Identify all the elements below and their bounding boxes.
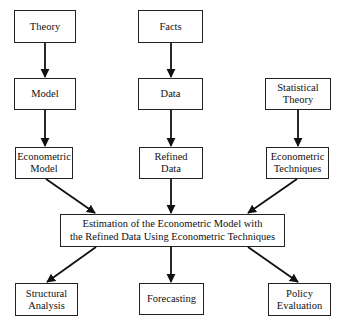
node-refined-data-label: Refined Data: [154, 151, 187, 175]
node-estimation-label: Estimation of the Econometric Model with…: [70, 218, 275, 243]
node-data-label: Data: [161, 88, 181, 100]
node-theory: Theory: [14, 10, 76, 43]
node-policy-evaluation-label: Policy Evaluation: [277, 288, 323, 312]
node-model-label: Model: [31, 88, 58, 100]
node-econometric-model-label: Econometric Model: [17, 151, 71, 175]
arrow-estimation-to-policy-evaluation: [248, 247, 298, 282]
node-statistical-theory: Statistical Theory: [265, 78, 331, 110]
node-data: Data: [138, 78, 203, 110]
node-forecasting-label: Forecasting: [147, 293, 196, 305]
arrow-econometric-model-to-estimation: [46, 179, 95, 213]
node-policy-evaluation: Policy Evaluation: [268, 283, 331, 316]
node-structural-analysis: Structural Analysis: [15, 283, 78, 316]
node-facts: Facts: [138, 10, 203, 43]
node-refined-data: Refined Data: [139, 147, 203, 179]
node-econometric-model: Econometric Model: [15, 147, 73, 179]
node-theory-label: Theory: [30, 21, 60, 33]
node-econometric-techniques-label: Econometric Techniques: [271, 151, 325, 175]
node-econometric-techniques: Econometric Techniques: [266, 147, 329, 179]
node-facts-label: Facts: [159, 21, 181, 33]
arrow-econometric-techniques-to-estimation: [248, 179, 297, 213]
econometrics-flowchart: Theory Facts Model Data Statistical Theo…: [0, 0, 341, 325]
node-forecasting: Forecasting: [139, 283, 204, 315]
node-estimation: Estimation of the Econometric Model with…: [60, 214, 285, 247]
node-structural-analysis-label: Structural Analysis: [26, 288, 67, 312]
node-model: Model: [14, 78, 76, 110]
node-statistical-theory-label: Statistical Theory: [277, 82, 318, 106]
arrow-estimation-to-structural-analysis: [47, 247, 96, 282]
